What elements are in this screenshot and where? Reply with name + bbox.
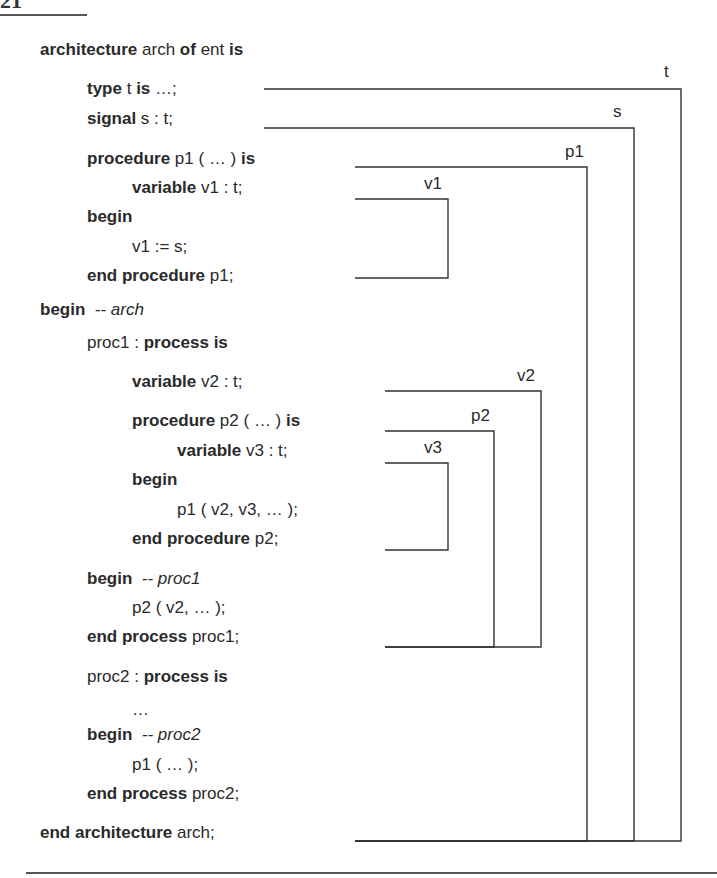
scope-label-p1: p1 <box>565 142 584 162</box>
scope-bracket-p1 <box>355 167 587 841</box>
scope-bracket-v3 <box>385 463 448 550</box>
scope-bracket-s <box>264 128 634 841</box>
scope-label-t: t <box>664 62 669 82</box>
scope-label-v2: v2 <box>517 366 535 386</box>
footer-rule <box>26 872 717 874</box>
scope-label-v1: v1 <box>424 174 442 194</box>
scope-bracket-v2 <box>385 391 541 647</box>
scope-label-p2: p2 <box>471 406 490 426</box>
scope-label-v3: v3 <box>424 438 442 458</box>
scope-diagram <box>0 0 717 878</box>
scope-label-s: s <box>613 102 622 122</box>
scope-bracket-v1 <box>355 199 448 278</box>
scope-bracket-t <box>264 89 681 841</box>
